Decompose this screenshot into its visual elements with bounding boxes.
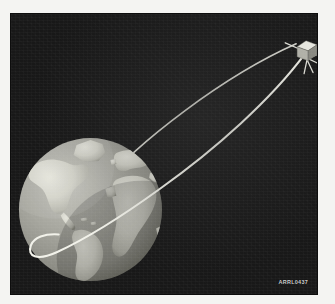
earth-globe [11, 111, 228, 294]
figure-container: ARRL0437 [0, 0, 335, 304]
night-sky-background: ARRL0437 [10, 13, 318, 295]
orbit-scene [11, 14, 317, 294]
satellite-body [297, 41, 317, 61]
scene-svg [11, 14, 317, 294]
figure-credit-label: ARRL0437 [278, 279, 308, 285]
